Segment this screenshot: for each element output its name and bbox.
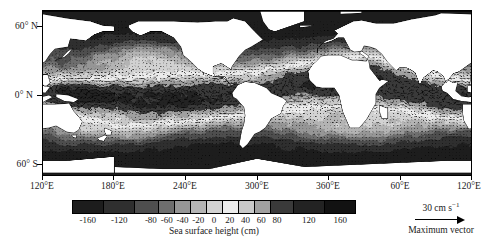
colorbar-segment <box>191 201 207 213</box>
colorbar-tick-label: -60 <box>161 215 173 225</box>
y-tick-label-60s: 60° S <box>17 159 38 169</box>
colorbar-tick-label: -40 <box>176 215 188 225</box>
y-tick-label-60n: 60° N <box>15 21 38 31</box>
vector-scale-legend: 30 cm s−1 Maximum vector <box>392 200 490 235</box>
colorbar-tick-label: 40 <box>241 215 250 225</box>
x-tick-mark-1 <box>113 176 114 180</box>
arrow-shaft <box>415 219 461 220</box>
vector-scale-number: 30 cm s <box>422 203 452 213</box>
colorbar-segment <box>223 201 239 213</box>
vector-scale-exponent: −1 <box>452 201 459 209</box>
x-tick-mark-5 <box>400 176 401 180</box>
sea-surface-height-map <box>43 11 471 175</box>
x-tick-mark-6 <box>471 176 472 180</box>
x-tick-mark-4 <box>328 176 329 180</box>
colorbar-segment <box>294 201 325 213</box>
colorbar-tick-label: 0 <box>212 215 217 225</box>
y-tick-label-0n: 0° N <box>15 90 33 100</box>
vector-scale-value: 30 cm s−1 <box>392 200 490 214</box>
colorbar-tick-label: -20 <box>192 215 204 225</box>
colorbar-segment <box>239 201 255 213</box>
colorbar-segment <box>159 201 175 213</box>
colorbar-axis-label: Sea surface height (cm) <box>169 226 259 236</box>
colorbar-segment <box>207 201 223 213</box>
x-tick-label-360e: 360°E <box>316 181 340 191</box>
colorbar-segment <box>175 201 191 213</box>
colorbar-tick-label: 120 <box>302 215 316 225</box>
x-tick-mark-3 <box>257 176 258 180</box>
x-tick-label-120e-right: 120°E <box>457 181 481 191</box>
x-tick-mark-2 <box>185 176 186 180</box>
colorbar-tick-label: 20 <box>225 215 234 225</box>
x-tick-mark-0 <box>42 176 43 180</box>
y-tick-mark-0n <box>37 95 42 96</box>
map-panel <box>42 10 472 176</box>
colorbar-segment <box>73 201 104 213</box>
right-arrow-icon <box>415 215 467 224</box>
y-tick-mark-60n <box>37 26 42 27</box>
x-tick-label-60e: 60°E <box>390 181 409 191</box>
colorbar <box>72 200 356 214</box>
colorbar-segment <box>325 201 355 213</box>
arrow-head <box>457 216 465 224</box>
colorbar-tick-label: -160 <box>80 215 97 225</box>
y-tick-mark-60s <box>37 164 42 165</box>
colorbar-tick-label: 80 <box>273 215 282 225</box>
colorbar-segment <box>135 201 159 213</box>
x-tick-label-180e: 180°E <box>101 181 125 191</box>
x-tick-label-300e: 300°E <box>245 181 269 191</box>
figure-container: 60° N 0° N 60° S 120°E 180°E 240°E 300°E… <box>0 0 490 248</box>
x-tick-label-240e: 240°E <box>173 181 197 191</box>
colorbar-tick-label: -120 <box>111 215 128 225</box>
colorbar-tick-label: 60 <box>257 215 266 225</box>
x-tick-label-120e-left: 120°E <box>30 181 54 191</box>
colorbar-tick-label: -80 <box>145 215 157 225</box>
colorbar-segment <box>271 201 295 213</box>
colorbar-tick-label: 160 <box>333 215 347 225</box>
colorbar-gradient <box>72 200 356 214</box>
colorbar-segment <box>104 201 135 213</box>
vector-legend-caption: Maximum vector <box>392 225 490 235</box>
colorbar-segment <box>255 201 271 213</box>
